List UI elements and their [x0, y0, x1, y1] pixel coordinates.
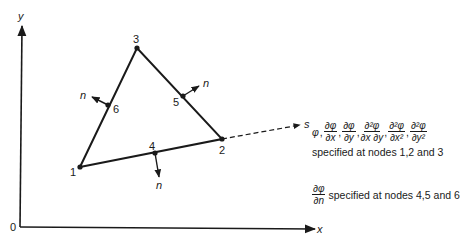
origin-label: 0	[10, 221, 16, 233]
node-3-point	[134, 45, 139, 50]
d2phi-dxdy: ∂²φ∂x ∂y	[361, 120, 384, 143]
x-axis-label: x	[316, 223, 323, 235]
node-5-label: 5	[173, 96, 179, 108]
node-4-label: 4	[149, 140, 155, 152]
midside-dof-text: specified at nodes 4,5 and 6	[328, 189, 459, 201]
s-axis-dashed	[222, 125, 300, 139]
coordinate-axes	[20, 26, 315, 229]
s-axis-label: s	[304, 118, 310, 130]
dphi-dn: ∂φ∂n	[312, 183, 325, 206]
normal-arrow-node-6	[92, 97, 108, 105]
normal-label-node-6: n	[80, 89, 86, 101]
phi-symbol: φ	[312, 126, 319, 138]
dphi-dy: ∂φ∂y	[342, 120, 355, 143]
normal-label-node-4: n	[156, 179, 162, 191]
node-6-point	[105, 102, 110, 107]
node-2-point	[219, 136, 224, 141]
node-6-label: 6	[113, 103, 119, 115]
d2phi-dy2: ∂²φ∂y²	[410, 120, 427, 143]
normal-arrow-node-5	[183, 86, 199, 96]
node-5-point	[180, 93, 185, 98]
node-1-point	[77, 164, 82, 169]
vertex-dof-annotation: φ, ∂φ∂x, ∂φ∂y, ∂²φ∂x ∂y, ∂²φ∂x², ∂²φ∂y² …	[312, 120, 443, 158]
node-1-label: 1	[70, 166, 76, 178]
normal-arrow-node-4	[155, 153, 159, 177]
dphi-dx: ∂φ∂x	[324, 120, 337, 143]
node-3-label: 3	[133, 33, 139, 45]
vertex-dof-text: specified at nodes 1,2 and 3	[312, 146, 443, 158]
y-axis-label: y	[17, 10, 25, 22]
normal-label-node-5: n	[203, 77, 209, 89]
x-axis	[20, 227, 315, 229]
vertex-dof-formula: φ, ∂φ∂x, ∂φ∂y, ∂²φ∂x ∂y, ∂²φ∂x², ∂²φ∂y²	[312, 120, 443, 143]
y-axis	[20, 26, 22, 227]
d2phi-dx2: ∂²φ∂x²	[388, 120, 405, 143]
midside-dof-annotation: ∂φ∂n specified at nodes 4,5 and 6	[312, 183, 460, 206]
node-2-label: 2	[219, 144, 225, 156]
